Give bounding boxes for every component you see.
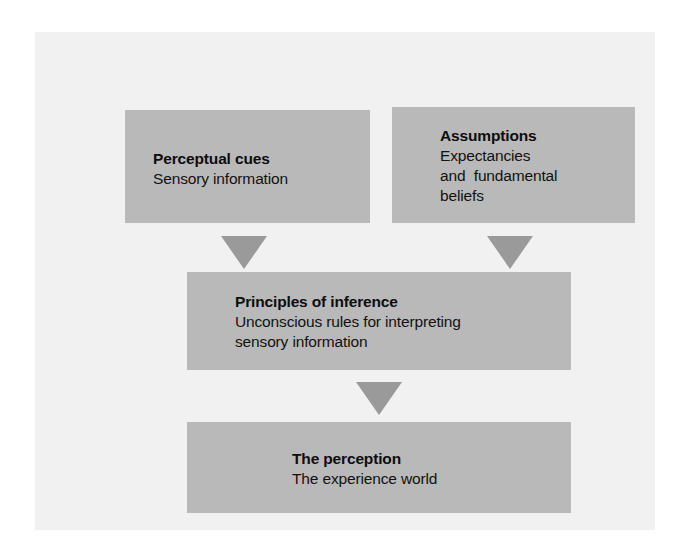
node-assumptions-title: Assumptions	[440, 126, 635, 146]
node-perceptual-cues: Perceptual cues Sensory information	[125, 110, 370, 223]
node-principles-of-inference-line-1: Unconscious rules for interpreting	[235, 312, 571, 332]
node-principles-of-inference: Principles of inference Unconscious rule…	[187, 272, 571, 370]
node-assumptions: Assumptions Expectancies and fundamental…	[392, 107, 635, 223]
node-perceptual-cues-title: Perceptual cues	[153, 149, 370, 169]
node-assumptions-line-2: and fundamental	[440, 166, 635, 186]
figure-panel: Perceptual cues Sensory information Assu…	[35, 32, 655, 530]
node-principles-of-inference-line-2: sensory information	[235, 332, 571, 352]
node-the-perception: The perception The experience world	[187, 422, 571, 513]
arrow-down-icon-assumptions-to-principles	[487, 236, 533, 269]
arrow-down-icon-cues-to-principles	[221, 236, 267, 269]
node-perceptual-cues-line-1: Sensory information	[153, 169, 370, 189]
node-assumptions-line-1: Expectancies	[440, 146, 635, 166]
node-principles-of-inference-title: Principles of inference	[235, 292, 571, 312]
arrow-down-icon-principles-to-perception	[356, 382, 402, 415]
figure-canvas: Perceptual cues Sensory information Assu…	[0, 0, 689, 557]
node-the-perception-line-1: The experience world	[292, 469, 571, 489]
node-assumptions-line-3: beliefs	[440, 186, 635, 206]
node-the-perception-title: The perception	[292, 449, 571, 469]
